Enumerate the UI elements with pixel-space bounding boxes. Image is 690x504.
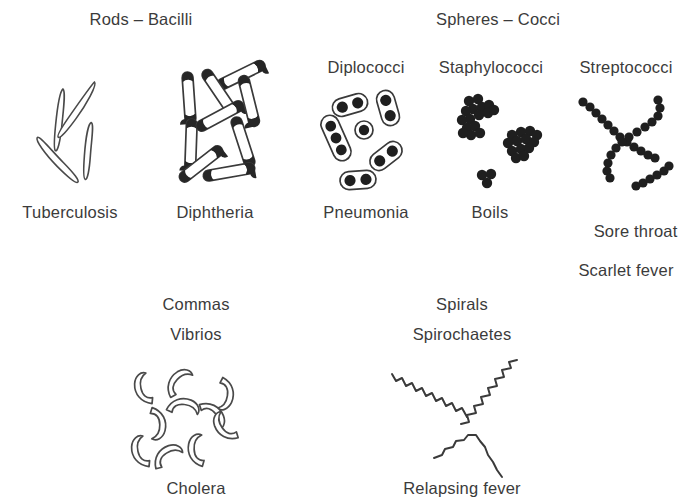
shape-heading-spirochaetes: Spirochaetes bbox=[413, 325, 512, 344]
drawing-staphylococci bbox=[437, 86, 552, 194]
drawing-streptococci bbox=[562, 86, 690, 194]
drawing-diplococci bbox=[316, 86, 421, 194]
disease-label-cholera: Cholera bbox=[166, 479, 225, 498]
bacteria-shapes-figure: Rods – Bacilli Spheres – Cocci Diplococc… bbox=[0, 0, 690, 504]
sub-heading-streptococci: Streptococci bbox=[579, 58, 672, 77]
shape-heading-spirals: Spirals bbox=[436, 295, 488, 314]
disease-label-diphtheria: Diphtheria bbox=[176, 203, 253, 222]
group-heading-spheres: Spheres – Cocci bbox=[436, 10, 560, 29]
disease-label-boils: Boils bbox=[472, 203, 509, 222]
drawing-tuberculosis bbox=[18, 58, 143, 193]
shape-heading-vibrios: Vibrios bbox=[170, 325, 222, 344]
sub-heading-diplococci: Diplococci bbox=[327, 58, 404, 77]
disease-label-tuberculosis: Tuberculosis bbox=[22, 203, 117, 222]
shape-heading-commas: Commas bbox=[162, 295, 229, 314]
disease-label-pneumonia: Pneumonia bbox=[323, 203, 408, 222]
group-heading-rods: Rods – Bacilli bbox=[90, 10, 193, 29]
disease-label-relapsing-fever: Relapsing fever bbox=[403, 479, 521, 498]
disease-label-line1: Sore throat bbox=[594, 222, 678, 240]
drawing-diphtheria bbox=[168, 52, 293, 194]
disease-label-streptococci: Sore throat Scarlet fever bbox=[575, 203, 678, 320]
drawing-spirochaetes bbox=[372, 366, 572, 478]
disease-label-line2: Scarlet fever bbox=[575, 261, 678, 280]
drawing-vibrios bbox=[132, 366, 267, 474]
sub-heading-staphylococci: Staphylococci bbox=[439, 58, 543, 77]
